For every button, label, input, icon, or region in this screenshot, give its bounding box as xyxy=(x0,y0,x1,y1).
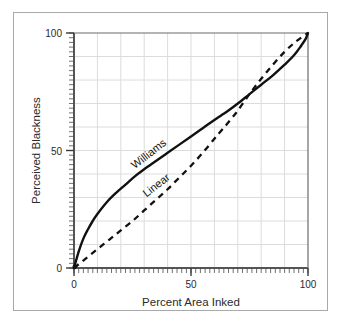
y-tick-label-100: 100 xyxy=(45,28,62,39)
origin-marker xyxy=(72,265,76,269)
x-tick-label-0: 0 xyxy=(71,279,77,290)
x-axis-title: Percent Area Inked xyxy=(142,296,240,308)
chart-canvas: Williams Linear 100 50 0 0 50 100 Percen… xyxy=(0,0,341,324)
chart-figure: Williams Linear 100 50 0 0 50 100 Percen… xyxy=(0,0,341,324)
y-axis-major-ticks xyxy=(66,33,74,268)
y-tick-label-0: 0 xyxy=(56,263,62,274)
x-tick-label-100: 100 xyxy=(300,279,317,290)
y-axis-title: Perceived Blackness xyxy=(30,97,42,204)
y-tick-label-50: 50 xyxy=(51,146,63,157)
x-axis-major-ticks xyxy=(74,268,308,276)
x-tick-label-50: 50 xyxy=(185,279,197,290)
